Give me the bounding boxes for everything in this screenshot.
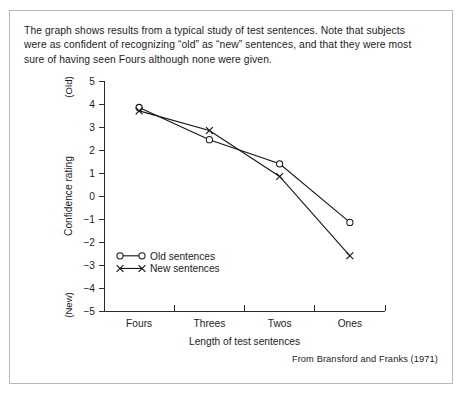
y-axis-pole-low-label: (New) bbox=[63, 292, 74, 318]
x-axis-tick-label: Ones bbox=[338, 318, 362, 329]
y-axis-tick-label: −4 bbox=[83, 283, 95, 294]
series-line-1 bbox=[139, 107, 350, 222]
y-axis-title: Confidence rating bbox=[63, 156, 74, 236]
y-axis-pole-high-label: (Old) bbox=[63, 76, 74, 97]
y-axis-tick-label: 4 bbox=[89, 99, 95, 110]
figure-container: The graph shows results from a typical s… bbox=[0, 0, 462, 393]
x-axis-tick-label: Twos bbox=[268, 318, 292, 329]
y-axis-tick-label: 3 bbox=[89, 122, 95, 133]
y-axis-tick-label: 0 bbox=[89, 191, 95, 202]
legend-1-marker-circle bbox=[139, 253, 145, 259]
y-axis-tick-label: 2 bbox=[89, 145, 95, 156]
x-axis-tick-label: Threes bbox=[194, 318, 226, 329]
legend-1-marker-circle bbox=[117, 253, 123, 259]
line-chart: 543210−1−2−3−4−5FoursThreesTwosOnesLengt… bbox=[0, 0, 462, 393]
legend-label-1: Old sentences bbox=[150, 251, 215, 262]
series-1-marker-circle bbox=[136, 104, 142, 110]
y-axis-tick-label: 1 bbox=[89, 168, 95, 179]
series-1-marker-circle bbox=[206, 137, 212, 143]
x-axis-tick-label: Fours bbox=[126, 318, 152, 329]
y-axis-tick-label: −3 bbox=[83, 260, 95, 271]
x-axis-title: Length of test sentences bbox=[189, 336, 300, 347]
series-1-marker-circle bbox=[347, 219, 353, 225]
y-axis-tick-label: −5 bbox=[83, 306, 95, 317]
y-axis-tick-label: 5 bbox=[89, 76, 95, 87]
y-axis-tick-label: −2 bbox=[83, 237, 95, 248]
legend-label-2: New sentences bbox=[150, 263, 220, 274]
series-line-2 bbox=[139, 111, 350, 256]
y-axis-tick-label: −1 bbox=[83, 214, 95, 225]
series-1-marker-circle bbox=[277, 161, 283, 167]
